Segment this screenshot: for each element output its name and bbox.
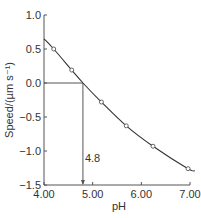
x-tick-label: 7.00 <box>179 188 200 200</box>
x-axis-title: pH <box>112 200 126 212</box>
y-tick-label: −1.0 <box>19 145 41 157</box>
axes <box>44 15 190 185</box>
arrowhead-icon <box>81 180 85 185</box>
data-point <box>70 68 74 72</box>
y-tick-label: 1.0 <box>26 9 41 21</box>
y-tick-label: −0.5 <box>19 111 41 123</box>
data-point <box>124 124 128 128</box>
ticks: 1.00.50.0−0.5−1.0−1.54.005.006.007.00 <box>19 9 200 200</box>
data-point <box>52 47 56 51</box>
x-tick-label: 5.00 <box>82 188 103 200</box>
x-tick-label: 4.00 <box>33 188 54 200</box>
y-tick-label: 0.0 <box>26 77 41 89</box>
fit-curve <box>44 39 195 171</box>
data-point <box>186 167 190 171</box>
y-tick-label: 0.5 <box>26 43 41 55</box>
isoelectric-guides <box>44 83 85 185</box>
data-points <box>52 47 190 171</box>
x-tick-label: 6.00 <box>131 188 152 200</box>
y-axis-title: Speed/(µm s⁻¹) <box>3 62 15 138</box>
isoelectric-point-label: 4.8 <box>85 152 100 164</box>
data-point <box>151 144 155 148</box>
data-point <box>99 100 103 104</box>
chart: 1.00.50.0−0.5−1.0−1.54.005.006.007.00 4.… <box>0 0 201 218</box>
